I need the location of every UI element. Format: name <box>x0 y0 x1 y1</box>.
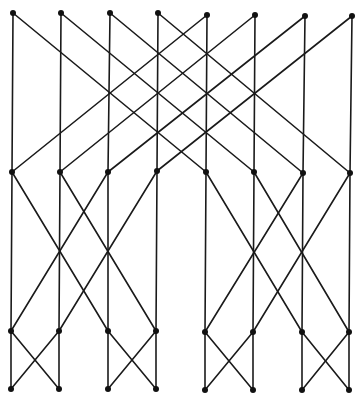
node-level-2-3 <box>153 328 159 334</box>
node-level-0-6 <box>302 13 308 19</box>
node-level-1-2 <box>105 169 111 175</box>
edge-straight <box>350 16 352 173</box>
edge-straight <box>60 13 61 172</box>
node-level-3-4 <box>202 387 208 393</box>
node-level-0-1 <box>58 10 64 16</box>
node-level-0-4 <box>204 12 210 18</box>
edge-straight <box>303 16 305 173</box>
edge-straight <box>11 172 12 331</box>
node-level-1-7 <box>347 170 353 176</box>
edge-straight <box>205 172 206 332</box>
node-level-3-0 <box>8 386 14 392</box>
butterfly-network-diagram <box>0 0 360 396</box>
node-level-2-6 <box>299 329 305 335</box>
node-level-0-2 <box>107 10 113 16</box>
edge-straight <box>12 13 13 172</box>
edge-straight <box>157 13 158 171</box>
node-level-2-7 <box>346 329 352 335</box>
node-level-1-0 <box>9 169 15 175</box>
node-level-3-5 <box>250 387 256 393</box>
node-level-2-0 <box>8 328 14 334</box>
node-level-0-0 <box>10 10 16 16</box>
node-level-2-1 <box>56 328 62 334</box>
edge-straight <box>156 171 157 331</box>
edge-straight <box>349 173 350 332</box>
node-level-3-7 <box>346 387 352 393</box>
node-level-2-4 <box>202 329 208 335</box>
node-level-0-7 <box>349 13 355 19</box>
node-level-3-3 <box>153 386 159 392</box>
node-level-2-5 <box>250 329 256 335</box>
node-level-1-5 <box>251 169 257 175</box>
node-level-1-6 <box>300 170 306 176</box>
node-level-1-4 <box>203 169 209 175</box>
node-level-1-3 <box>154 168 160 174</box>
node-level-1-1 <box>57 169 63 175</box>
node-level-3-1 <box>56 386 62 392</box>
node-level-2-2 <box>105 328 111 334</box>
node-level-3-6 <box>299 387 305 393</box>
node-level-3-2 <box>105 386 111 392</box>
node-level-0-3 <box>155 10 161 16</box>
node-level-0-5 <box>252 12 258 18</box>
